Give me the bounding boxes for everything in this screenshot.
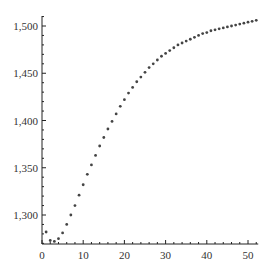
data-point (94, 154, 97, 157)
x-tick-label: 10 (78, 249, 90, 261)
data-point (65, 223, 68, 226)
data-point (222, 26, 225, 29)
data-point (210, 29, 213, 32)
data-point (164, 52, 167, 55)
data-point (102, 136, 105, 139)
data-point (148, 66, 151, 69)
data-point (172, 46, 175, 49)
data-point (119, 105, 122, 108)
data-point (127, 92, 130, 95)
data-point (193, 36, 196, 39)
data-point (201, 32, 204, 35)
x-tick-label: 20 (119, 249, 131, 261)
tick-labels: 010203040501,3001,3501,4001,4501,500 (13, 20, 254, 261)
data-point (144, 71, 147, 74)
data-point (242, 22, 245, 25)
data-point (86, 173, 89, 176)
data-point (238, 23, 241, 26)
data-point (90, 164, 93, 167)
data-points (45, 19, 258, 243)
data-point (205, 31, 208, 34)
data-point (135, 80, 138, 83)
axes (42, 16, 258, 244)
data-point (152, 62, 155, 65)
data-point (57, 237, 60, 240)
x-tick-label: 30 (160, 249, 172, 261)
data-point (45, 231, 48, 234)
y-tick-label: 1,450 (13, 67, 38, 79)
data-point (111, 120, 114, 123)
data-point (74, 204, 77, 207)
data-point (156, 59, 159, 62)
data-point (181, 42, 184, 45)
data-point (98, 145, 101, 148)
data-point (53, 240, 56, 243)
data-point (160, 55, 163, 58)
data-point (49, 239, 52, 242)
y-tick-label: 1,300 (13, 209, 38, 221)
data-point (234, 24, 237, 27)
data-point (214, 28, 217, 31)
data-point (185, 40, 188, 43)
y-tick-label: 1,500 (13, 20, 38, 32)
ticks (42, 17, 256, 244)
data-point (107, 128, 110, 131)
data-point (218, 27, 221, 30)
data-point (115, 112, 118, 115)
data-point (197, 34, 200, 37)
data-point (69, 214, 72, 217)
data-point (255, 19, 258, 22)
data-point (168, 49, 171, 52)
data-point (247, 21, 250, 24)
data-point (230, 25, 233, 28)
data-point (139, 76, 142, 79)
y-tick-label: 1,400 (13, 115, 38, 127)
data-point (131, 86, 134, 89)
data-point (226, 26, 229, 29)
x-tick-label: 0 (39, 249, 45, 261)
data-point (78, 194, 81, 197)
data-point (82, 183, 85, 186)
data-point (123, 98, 126, 101)
data-point (177, 44, 180, 47)
x-tick-label: 50 (243, 249, 255, 261)
data-point (189, 38, 192, 41)
scatter-chart: 010203040501,3001,3501,4001,4501,500 (0, 0, 270, 271)
x-tick-label: 40 (201, 249, 213, 261)
y-tick-label: 1,350 (13, 162, 38, 174)
data-point (251, 20, 254, 23)
data-point (61, 232, 64, 235)
